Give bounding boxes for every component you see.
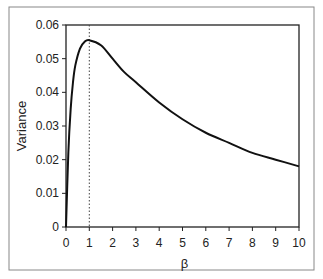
x-tick-label: 5 — [179, 236, 186, 250]
y-tick-label: 0.01 — [36, 186, 60, 200]
x-tick-label: 1 — [86, 236, 93, 250]
x-tick-label: 10 — [292, 236, 306, 250]
variance-chart: 00.010.020.030.040.050.06012345678910βVa… — [0, 0, 323, 279]
x-tick-label: 0 — [63, 236, 70, 250]
x-tick-label: 8 — [249, 236, 256, 250]
y-axis-title: Variance — [14, 101, 29, 151]
y-tick-label: 0.06 — [36, 18, 60, 32]
x-tick-label: 9 — [272, 236, 279, 250]
y-tick-label: 0 — [52, 220, 59, 234]
y-tick-label: 0.05 — [36, 52, 60, 66]
x-tick-label: 2 — [109, 236, 116, 250]
x-tick-label: 4 — [156, 236, 163, 250]
x-tick-label: 6 — [202, 236, 209, 250]
y-tick-label: 0.04 — [36, 85, 60, 99]
y-tick-label: 0.02 — [36, 153, 60, 167]
x-tick-label: 3 — [133, 236, 140, 250]
y-tick-label: 0.03 — [36, 119, 60, 133]
x-tick-label: 7 — [226, 236, 233, 250]
x-axis-title: β — [181, 256, 188, 271]
